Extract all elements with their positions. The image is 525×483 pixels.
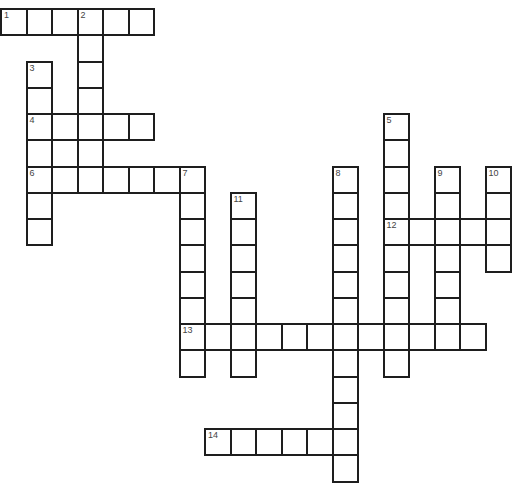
crossword-cell[interactable]: 9 [434,166,462,194]
crossword-cell[interactable] [102,113,130,141]
crossword-cell[interactable] [434,271,462,299]
crossword-cell[interactable] [51,8,79,36]
crossword-cell[interactable] [230,349,258,377]
crossword-cell[interactable] [383,166,411,194]
crossword-cell[interactable] [204,323,232,351]
crossword-cell[interactable] [77,113,105,141]
crossword-cell[interactable] [102,166,130,194]
crossword-cell[interactable] [485,244,513,272]
crossword-cell[interactable] [332,323,360,351]
crossword-cell[interactable] [230,271,258,299]
crossword-cell[interactable]: 12 [383,218,411,246]
crossword-cell[interactable] [26,192,54,220]
crossword-cell[interactable] [332,428,360,456]
crossword-cell[interactable]: 13 [179,323,207,351]
clue-number: 7 [183,168,188,178]
crossword-cell[interactable] [26,87,54,115]
clue-number: 12 [387,220,397,230]
crossword-cell[interactable] [77,61,105,89]
crossword-cell[interactable] [332,244,360,272]
crossword-cell[interactable] [383,271,411,299]
crossword-cell[interactable] [383,139,411,167]
crossword-cell[interactable] [383,244,411,272]
crossword-cell[interactable] [281,323,309,351]
crossword-cell[interactable] [332,218,360,246]
crossword-cell[interactable] [485,218,513,246]
crossword-cell[interactable]: 2 [77,8,105,36]
crossword-cell[interactable] [26,8,54,36]
crossword-cell[interactable] [102,8,130,36]
crossword-cell[interactable] [459,323,487,351]
clue-number: 6 [30,168,35,178]
crossword-cell[interactable] [230,428,258,456]
clue-number: 4 [30,115,35,125]
crossword-cell[interactable]: 10 [485,166,513,194]
crossword-cell[interactable] [408,218,436,246]
crossword-cell[interactable] [153,166,181,194]
crossword-cell[interactable] [51,113,79,141]
crossword-cell[interactable]: 6 [26,166,54,194]
crossword-cell[interactable] [77,34,105,62]
crossword-cell[interactable] [51,139,79,167]
crossword-cell[interactable] [230,218,258,246]
crossword-cell[interactable] [77,87,105,115]
crossword-cell[interactable] [281,428,309,456]
crossword-cell[interactable]: 8 [332,166,360,194]
crossword-cell[interactable] [383,297,411,325]
clue-number: 2 [81,10,86,20]
crossword-cell[interactable] [306,428,334,456]
crossword-cell[interactable] [383,192,411,220]
crossword-cell[interactable] [179,349,207,377]
crossword-cell[interactable] [179,271,207,299]
crossword-cell[interactable] [26,218,54,246]
crossword-cell[interactable] [26,139,54,167]
crossword-cell[interactable] [332,192,360,220]
crossword-cell[interactable] [179,244,207,272]
crossword-cell[interactable] [434,244,462,272]
crossword-cell[interactable] [434,218,462,246]
crossword-cell[interactable] [332,376,360,404]
crossword-cell[interactable]: 4 [26,113,54,141]
crossword-cell[interactable] [332,402,360,430]
crossword-cell[interactable] [128,113,156,141]
crossword-cell[interactable] [332,297,360,325]
crossword-cell[interactable] [179,297,207,325]
crossword-cell[interactable] [51,166,79,194]
crossword-cell[interactable] [128,166,156,194]
crossword-cell[interactable]: 5 [383,113,411,141]
crossword-cell[interactable] [434,192,462,220]
crossword-cell[interactable] [434,323,462,351]
crossword-cell[interactable] [383,323,411,351]
crossword-cell[interactable]: 7 [179,166,207,194]
crossword-cell[interactable] [230,323,258,351]
clue-number: 14 [208,430,218,440]
crossword-cell[interactable]: 14 [204,428,232,456]
crossword-cell[interactable] [434,297,462,325]
crossword-cell[interactable] [357,323,385,351]
crossword-cell[interactable] [230,244,258,272]
crossword-cell[interactable] [128,8,156,36]
crossword-cell[interactable] [179,192,207,220]
clue-number: 3 [30,63,35,73]
crossword-cell[interactable] [306,323,334,351]
crossword-cell[interactable] [459,218,487,246]
crossword-cell[interactable]: 11 [230,192,258,220]
crossword-cell[interactable] [383,349,411,377]
clue-number: 1 [4,10,9,20]
crossword-cell[interactable] [485,192,513,220]
clue-number: 9 [438,168,443,178]
crossword-cell[interactable] [230,297,258,325]
crossword-cell[interactable] [77,139,105,167]
crossword-cell[interactable] [255,323,283,351]
crossword-cell[interactable] [332,349,360,377]
crossword-cell[interactable] [255,428,283,456]
crossword-cell[interactable]: 3 [26,61,54,89]
crossword-cell[interactable] [77,166,105,194]
crossword-cell[interactable] [179,218,207,246]
crossword-cell[interactable]: 1 [0,8,28,36]
crossword-cell[interactable] [332,454,360,482]
clue-number: 10 [489,168,499,178]
crossword-cell[interactable] [408,323,436,351]
clue-number: 5 [387,115,392,125]
crossword-cell[interactable] [332,271,360,299]
